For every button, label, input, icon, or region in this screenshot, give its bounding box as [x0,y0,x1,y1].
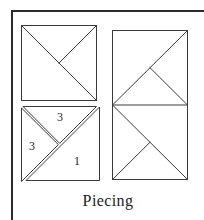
piece-1-outline [27,108,100,181]
piece-label-3-top: 3 [57,111,63,123]
seam-half-lower-right [113,142,151,179]
seam-half-upper-left [59,26,97,64]
piece-3-left-outline [22,109,59,182]
assembled-block-right-pair [113,31,188,180]
assembled-block-upper-left [22,26,97,101]
figure-caption: Piecing [0,192,204,210]
piece-label-3-left: 3 [29,140,35,152]
piece-label-1-large: 1 [74,155,80,167]
quilt-block-linework [0,0,204,220]
piecing-figure: 3 3 1 Piecing [0,0,204,220]
seam-half-upper-right [150,68,188,105]
